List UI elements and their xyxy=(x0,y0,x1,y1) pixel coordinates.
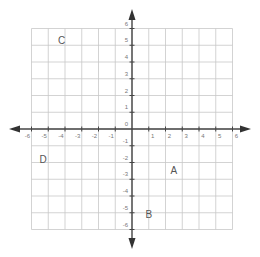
y-tick-label: 5 xyxy=(125,37,129,43)
point-label-c: C xyxy=(58,35,65,46)
point-labels: ABCD xyxy=(40,35,178,220)
y-axis-up-arrow-icon xyxy=(129,9,136,20)
x-tick-label: -4 xyxy=(58,133,64,139)
x-axis-left-arrow-icon xyxy=(9,126,20,133)
y-tick-label: -2 xyxy=(123,155,129,161)
y-tick-label: 2 xyxy=(125,88,129,94)
point-label-a: A xyxy=(171,165,178,176)
point-label-d: D xyxy=(40,154,47,165)
x-tick-label: -3 xyxy=(75,133,81,139)
x-tick-label: -5 xyxy=(42,133,48,139)
coordinate-plane: -6-5-4-3-2-1123456 6543210-1-2-3-4-5-6 A… xyxy=(0,0,260,257)
x-tick-label: 4 xyxy=(201,133,205,139)
x-tick-label: 2 xyxy=(168,133,172,139)
x-tick-label: 1 xyxy=(151,133,155,139)
x-tick-label: 5 xyxy=(218,133,222,139)
y-tick-label: -6 xyxy=(123,222,129,228)
x-tick-label: -2 xyxy=(92,133,98,139)
y-tick-label: 0 xyxy=(125,121,129,127)
y-tick-label: 4 xyxy=(125,54,129,60)
x-axis-right-arrow-icon xyxy=(240,126,251,133)
y-tick-label: -1 xyxy=(123,138,129,144)
point-label-b: B xyxy=(145,209,152,220)
y-tick-label: 6 xyxy=(125,21,129,27)
y-tick-label: -5 xyxy=(123,205,129,211)
y-tick-label: -4 xyxy=(123,188,129,194)
y-tick-label: -3 xyxy=(123,171,129,177)
y-tick-labels: 6543210-1-2-3-4-5-6 xyxy=(123,21,129,228)
x-tick-label: -6 xyxy=(25,133,31,139)
x-tick-label: 6 xyxy=(235,133,239,139)
y-axis-down-arrow-icon xyxy=(129,238,136,249)
x-tick-label: 3 xyxy=(185,133,189,139)
y-tick-label: 3 xyxy=(125,71,129,77)
y-tick-label: 1 xyxy=(125,104,129,110)
x-tick-label: -1 xyxy=(109,133,115,139)
